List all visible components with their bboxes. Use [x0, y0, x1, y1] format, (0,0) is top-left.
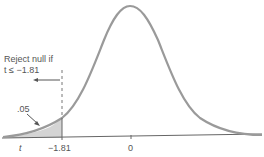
- tick-label-critical: −1.81: [48, 143, 71, 153]
- t-distribution-chart: Reject null if t ≤ −1.81 .05 t −1.81 0: [0, 0, 264, 157]
- axis-variable-label: t: [19, 143, 22, 153]
- reject-label-line1: Reject null if: [4, 54, 54, 64]
- alpha-label: .05: [17, 104, 30, 114]
- reject-label-line2: t ≤ −1.81: [4, 65, 39, 75]
- arrow-head-icon: [33, 78, 38, 82]
- tick-label-zero: 0: [128, 143, 133, 153]
- density-curve: [3, 6, 262, 137]
